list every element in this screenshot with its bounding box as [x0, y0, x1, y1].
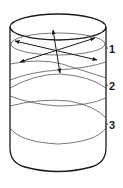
level-1-ellipse [11, 33, 105, 55]
level-label-2: 2 [109, 81, 115, 92]
cylinder-diagram [0, 0, 123, 188]
cylinder-walls [10, 27, 106, 172]
level-2-curves [10, 61, 106, 88]
level-3-curves [10, 96, 106, 144]
level-label-3: 3 [109, 120, 115, 131]
level-label-1: 1 [109, 44, 115, 55]
